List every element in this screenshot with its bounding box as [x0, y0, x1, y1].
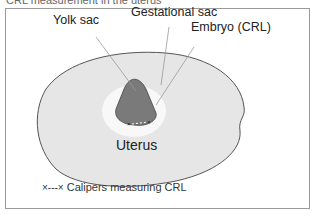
caliper-legend-icon: ×---× — [42, 182, 64, 193]
uterus-diagram-svg: × × — [6, 9, 311, 210]
label-embryo: Embryo (CRL) — [191, 20, 271, 34]
label-uterus: Uterus — [116, 137, 157, 153]
svg-text:×: × — [127, 121, 131, 127]
label-gestational-sac: Gestational sac — [131, 5, 217, 19]
label-yolk-sac: Yolk sac — [53, 13, 99, 27]
svg-text:×: × — [147, 119, 151, 125]
legend: ×---× Calipers measuring CRL — [42, 181, 187, 193]
legend-text: Calipers measuring CRL — [67, 181, 187, 193]
diagram-frame: × × Yolk sac Gestational sac Embryo (CRL… — [5, 8, 310, 209]
